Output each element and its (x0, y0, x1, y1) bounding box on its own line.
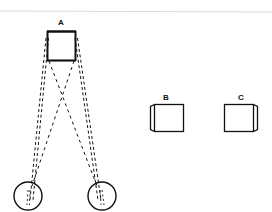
sight-lines (27, 38, 104, 205)
label-a: A (58, 18, 64, 27)
cube-b (151, 105, 184, 132)
cube-c (225, 105, 258, 132)
label-b: B (163, 93, 169, 102)
sight-line-cross-to-right-eye (49, 61, 97, 186)
sight-line-cross-to-left-eye (32, 61, 74, 186)
label-c: C (238, 93, 244, 102)
right-eye-icon (88, 182, 116, 210)
cube-a (47, 31, 76, 61)
top-rule (0, 11, 272, 12)
sight-line-left-outer (30, 38, 49, 200)
binocular-vision-diagram: A B C (0, 0, 272, 212)
sight-line-right-outer (75, 38, 101, 200)
